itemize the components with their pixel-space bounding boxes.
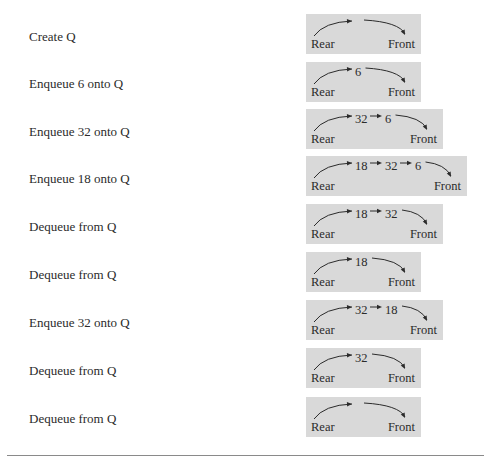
operation-label: Create Q xyxy=(29,29,76,45)
front-label: Front xyxy=(388,275,415,289)
operation-label: Dequeue from Q xyxy=(29,267,116,283)
queue-element: 32 xyxy=(355,351,368,365)
queue-state-box: Rear Front xyxy=(306,397,421,437)
operation-label: Enqueue 18 onto Q xyxy=(29,171,130,187)
front-label: Front xyxy=(410,227,437,241)
queue-element: 32 xyxy=(355,303,368,317)
rear-label: Rear xyxy=(311,275,335,289)
front-label: Front xyxy=(388,37,415,51)
queue-element: 6 xyxy=(355,65,361,79)
queue-state-box: 32 Rear Front xyxy=(306,348,421,388)
bottom-rule-divider xyxy=(7,455,484,456)
queue-element: 18 xyxy=(355,207,368,221)
front-label: Front xyxy=(410,132,437,146)
queue-element: 18 xyxy=(355,255,368,269)
queue-state-box: 326 Rear Front xyxy=(306,109,443,149)
front-label: Front xyxy=(410,323,437,337)
operation-label: Enqueue 32 onto Q xyxy=(29,124,130,140)
operation-label: Dequeue from Q xyxy=(29,411,116,427)
queue-state-box: 18 Rear Front xyxy=(306,252,421,292)
front-label: Front xyxy=(388,371,415,385)
operation-label: Enqueue 32 onto Q xyxy=(29,315,130,331)
front-label: Front xyxy=(388,85,415,99)
rear-label: Rear xyxy=(311,179,335,193)
operation-label: Dequeue from Q xyxy=(29,219,116,235)
queue-state-box: Rear Front xyxy=(306,14,421,54)
front-label: Front xyxy=(388,420,415,434)
queue-element: 32 xyxy=(385,159,398,173)
queue-element: 32 xyxy=(355,112,368,126)
queue-element: 6 xyxy=(415,159,421,173)
rear-label: Rear xyxy=(311,85,335,99)
queue-element: 6 xyxy=(385,112,391,126)
operation-label: Dequeue from Q xyxy=(29,363,116,379)
queue-state-box: 1832 Rear Front xyxy=(306,204,443,244)
rear-label: Rear xyxy=(311,132,335,146)
queue-state-box: 6 Rear Front xyxy=(306,62,421,102)
queue-state-box: 3218 Rear Front xyxy=(306,300,443,340)
queue-element: 32 xyxy=(385,207,398,221)
rear-label: Rear xyxy=(311,37,335,51)
rear-label: Rear xyxy=(311,227,335,241)
rear-label: Rear xyxy=(311,371,335,385)
front-label: Front xyxy=(434,179,461,193)
rear-label: Rear xyxy=(311,420,335,434)
rear-label: Rear xyxy=(311,323,335,337)
queue-element: 18 xyxy=(355,159,368,173)
queue-state-box: 18326 Rear Front xyxy=(306,156,467,196)
operation-label: Enqueue 6 onto Q xyxy=(29,76,123,92)
queue-element: 18 xyxy=(385,303,398,317)
